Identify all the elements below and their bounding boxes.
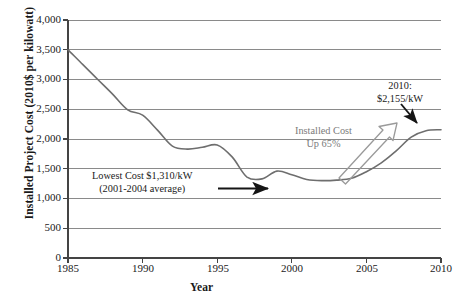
axis-lines-final xyxy=(63,20,441,263)
gridlines-final xyxy=(68,20,441,228)
plot-canvas xyxy=(0,0,464,304)
chart-figure: Installed Project Cost (2010$ per kilowa… xyxy=(0,0,464,304)
installed-cost-curve xyxy=(68,50,441,181)
gray-up-arrow-icon xyxy=(339,123,397,184)
final-value-arrow-icon xyxy=(401,104,417,123)
